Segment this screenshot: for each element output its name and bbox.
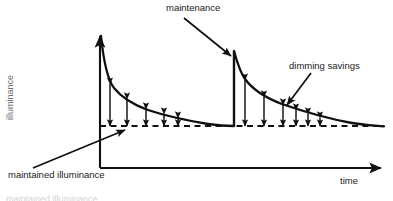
x-axis-label: time bbox=[340, 176, 358, 186]
maintained-illuminance-label: maintained illuminance bbox=[8, 170, 105, 180]
maintained-illuminance-leader-line bbox=[33, 130, 125, 168]
savings-arrows-segment-1 bbox=[110, 84, 178, 126]
clipped-caption-text: maintained illuminance bbox=[6, 195, 98, 201]
maintenance-label: maintenance bbox=[166, 3, 220, 13]
decay-curve-segment-1 bbox=[101, 36, 234, 126]
y-axis-label: illuminance bbox=[6, 67, 15, 129]
illuminance-maintenance-diagram: maintenance dimming savings maintained i… bbox=[0, 0, 393, 201]
maintenance-leader-line bbox=[184, 18, 231, 56]
dimming-savings-leader-line bbox=[287, 73, 311, 105]
dimming-savings-label: dimming savings bbox=[289, 61, 360, 71]
